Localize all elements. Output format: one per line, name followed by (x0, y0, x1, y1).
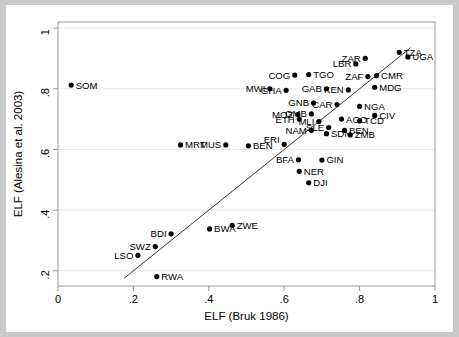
data-point (283, 88, 288, 93)
data-point-label: MDG (379, 82, 401, 93)
y-axis-ticks: .2.4.6.81 (39, 28, 58, 279)
data-point (374, 73, 379, 78)
y-tick-label: 1 (39, 29, 51, 35)
data-point-label: SOM (76, 80, 98, 91)
x-tick-label: .4 (204, 293, 213, 305)
axes-frame (58, 22, 435, 286)
data-point (178, 142, 183, 147)
data-point (223, 142, 228, 147)
data-point-label: BDI (151, 228, 167, 239)
data-point-label: GIN (326, 154, 343, 165)
data-point (153, 244, 158, 249)
data-point (405, 54, 410, 59)
y-tick-label: .4 (39, 210, 51, 219)
data-point (282, 142, 287, 147)
data-point-label: ZWE (237, 220, 258, 231)
data-point (397, 50, 402, 55)
data-point-label: CIV (379, 110, 396, 121)
x-tick-label: 0 (55, 293, 61, 305)
data-point-label: NER (304, 166, 324, 177)
x-tick-label: .6 (280, 293, 289, 305)
data-point (207, 226, 212, 231)
data-point (135, 253, 140, 258)
data-point (246, 143, 251, 148)
reference-line (124, 48, 411, 279)
data-point (154, 274, 159, 279)
data-point-label: RWA (161, 271, 183, 282)
x-tick-label: 1 (432, 293, 438, 305)
data-point-label: DJI (313, 177, 327, 188)
x-tick-label: .8 (355, 293, 364, 305)
data-point (342, 128, 347, 133)
data-point (319, 157, 324, 162)
data-point (339, 117, 344, 122)
data-point-label: GHA (261, 85, 282, 96)
data-point (169, 231, 174, 236)
data-point (297, 169, 302, 174)
y-tick-label: .6 (39, 149, 51, 158)
x-tick-label: .2 (129, 293, 138, 305)
data-point-label: CAR (312, 99, 332, 110)
data-point-label: ERI (264, 134, 280, 145)
data-point (292, 73, 297, 78)
data-point (69, 83, 74, 88)
data-point-label: ZAF (345, 71, 363, 82)
data-point-label: COG (268, 70, 290, 81)
data-point-label: TGO (313, 69, 334, 80)
data-point (334, 102, 339, 107)
data-point-label: ETH (276, 114, 295, 125)
data-point (346, 87, 351, 92)
data-points-group: SOMMRTMUSBENERIBFAGINNERDJIMWIGHACOGTGOG… (69, 47, 434, 282)
data-point-label: ZMB (355, 129, 375, 140)
data-point (372, 113, 377, 118)
data-point-label: MUS (200, 139, 221, 150)
gridlines-group (58, 28, 435, 271)
data-point (357, 104, 362, 109)
y-tick-label: .8 (39, 88, 51, 97)
data-point-label: GAB (302, 83, 322, 94)
data-point (324, 131, 329, 136)
data-point-label: KEN (324, 84, 344, 95)
data-point-label: GNB (288, 97, 309, 108)
data-point-label: SWZ (129, 241, 150, 252)
y-axis-title: ELF (Alesina et al. 2003) (12, 91, 24, 218)
data-point-label: CMR (381, 70, 403, 81)
data-point-label: UGA (412, 51, 433, 62)
figure-canvas: 0.2.4.6.81 .2.4.6.81 SOMMRTMUSBENERIBFAG… (6, 5, 453, 332)
data-point (306, 72, 311, 77)
data-point-label: ZAR (342, 53, 361, 64)
data-point (357, 118, 362, 123)
data-point-label: BFA (276, 154, 295, 165)
data-point-label: SLE (306, 122, 324, 133)
plot-frame (58, 22, 435, 286)
fit-line (124, 48, 411, 279)
data-point (365, 74, 370, 79)
data-point (230, 223, 235, 228)
data-point-label: NAM (286, 125, 307, 136)
data-point (296, 157, 301, 162)
data-point (363, 56, 368, 61)
x-axis-title: ELF (Bruk 1986) (204, 310, 289, 322)
data-point (348, 132, 353, 137)
y-tick-label: .2 (39, 270, 51, 279)
data-point (372, 85, 377, 90)
data-point (306, 180, 311, 185)
x-axis-ticks: 0.2.4.6.81 (55, 286, 438, 305)
scatter-plot: 0.2.4.6.81 .2.4.6.81 SOMMRTMUSBENERIBFAG… (6, 5, 453, 332)
